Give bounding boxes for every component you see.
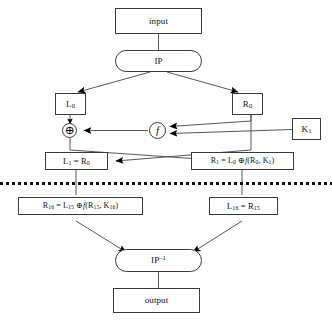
edge-r16-to-ipinv: [76, 221, 126, 252]
edge-ip-to-r0: [167, 72, 238, 92]
node-l0[interactable]: L0: [55, 93, 86, 115]
node-ip-label: IP: [154, 57, 162, 66]
edge-k1-to-f: [170, 130, 292, 134]
edge-l16-to-ipinv: [193, 221, 242, 252]
node-ip[interactable]: IP: [115, 50, 202, 72]
edge-ip-to-l0: [78, 72, 150, 92]
node-ip-inverse[interactable]: IP–1: [115, 249, 202, 272]
node-r1[interactable]: R1 = L0 ⊕f(R0, K1): [191, 152, 294, 170]
des-feistel-diagram: input IP L0 R0 ⊕ f K1 L1 = R0 R1 = L0 ⊕f…: [0, 0, 332, 320]
node-r1-label: R1 = L0 ⊕f(R0, K1): [211, 157, 275, 165]
rounds-omitted-separator: [0, 182, 332, 185]
node-l0-label: L0: [66, 100, 75, 109]
node-l16[interactable]: L16 = R15: [209, 197, 278, 215]
node-l1-label: L1 = R0: [63, 157, 90, 166]
node-l1[interactable]: L1 = R0: [45, 152, 108, 170]
node-input-label: input: [149, 17, 168, 26]
node-input[interactable]: input: [115, 8, 202, 34]
node-output[interactable]: output: [113, 288, 200, 313]
node-ip-inverse-label: IP–1: [151, 256, 166, 265]
f-function-glyph: f: [156, 125, 159, 136]
edge-r0-to-f: [170, 115, 251, 127]
node-r16-label: R16 = L15 ⊕f(R15, K16): [43, 202, 118, 210]
node-f-function[interactable]: f: [149, 122, 166, 139]
node-output-label: output: [145, 296, 169, 305]
xor-glyph: ⊕: [64, 124, 74, 136]
node-l16-label: L16 = R15: [227, 202, 260, 211]
node-k1-label: K1: [302, 125, 312, 134]
node-r0-label: R0: [243, 100, 252, 109]
node-k1[interactable]: K1: [292, 118, 321, 140]
xor-operator-icon[interactable]: ⊕: [62, 123, 77, 138]
node-r16[interactable]: R16 = L15 ⊕f(R15, K16): [18, 197, 143, 215]
node-r0[interactable]: R0: [232, 93, 263, 115]
